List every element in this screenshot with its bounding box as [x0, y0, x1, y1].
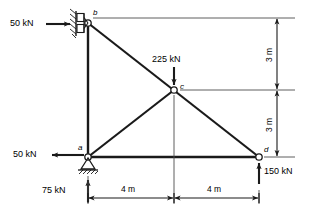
extension-lines: [93, 18, 295, 157]
force-label-reaction-d: 150 kN: [264, 167, 293, 176]
joint-c: [171, 87, 177, 93]
dimension-label-span-right: 4 m: [207, 185, 221, 194]
dimension-label-height-upper: 3 m: [265, 48, 274, 62]
force-label-reaction-a: 75 kN: [42, 186, 66, 195]
force-label-load-b: 50 kN: [10, 19, 34, 28]
member-a-c: [88, 90, 174, 157]
joint-d: [256, 154, 262, 160]
dimension-label-span-left: 4 m: [121, 185, 135, 194]
joint-label-d: d: [264, 146, 268, 154]
force-label-load-a: 50 kN: [13, 150, 37, 159]
dimension-label-height-lower: 3 m: [265, 118, 274, 132]
truss-diagram: 50 kN 225 kN 50 kN 75 kN 150 kN b c a d …: [0, 0, 309, 216]
force-arrows: [46, 24, 259, 202]
truss-drawing-canvas: [0, 0, 309, 216]
force-label-load-c: 225 kN: [152, 55, 181, 64]
dimension-lines-horizontal: [88, 95, 259, 204]
joint-label-b: b: [93, 9, 97, 17]
joint-label-a: a: [78, 144, 82, 152]
wall-hatching-b: [70, 9, 76, 38]
joint-label-c: c: [180, 83, 184, 91]
